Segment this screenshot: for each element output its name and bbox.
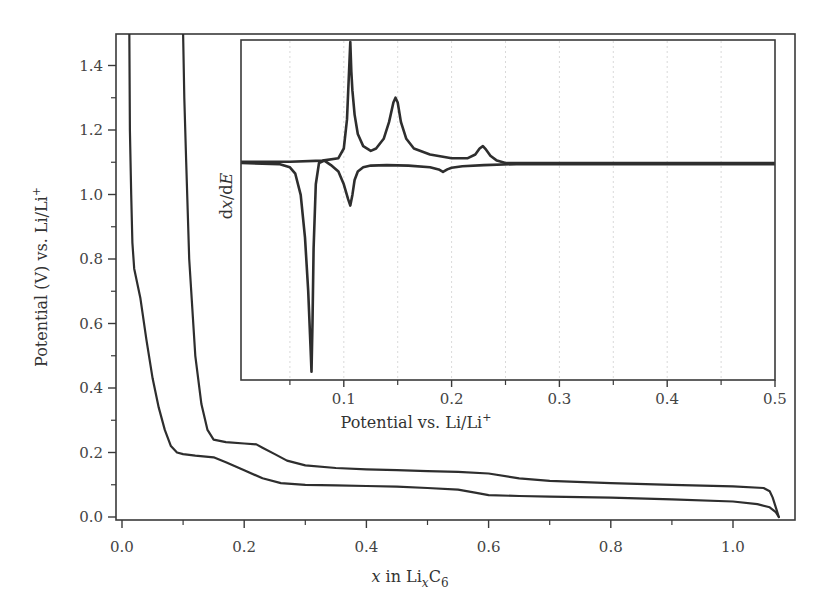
- chart-canvas: 0.00.20.40.60.81.01.21.4 0.00.20.40.60.8…: [0, 0, 823, 615]
- inset-x-tick-label: 0.4: [655, 390, 679, 408]
- y-tick-label: 0.2: [79, 444, 103, 462]
- inset-x-tick-label: 0.3: [547, 390, 571, 408]
- inset-x-tick-label: 0.5: [763, 390, 787, 408]
- x-tick-label: 0.0: [110, 538, 134, 556]
- y-tick-label: 1.2: [79, 121, 103, 139]
- inset-x-axis-ticks: 0.10.20.30.40.5: [290, 380, 787, 408]
- x-tick-label: 0.8: [599, 538, 623, 556]
- y-tick-label: 1.0: [79, 186, 103, 204]
- inset-x-tick-label: 0.2: [440, 390, 464, 408]
- y-tick-label: 0.6: [79, 315, 103, 333]
- inset-y-axis-label: dx/dE: [217, 172, 236, 219]
- x-tick-label: 0.4: [354, 538, 378, 556]
- x-tick-label: 0.2: [232, 538, 256, 556]
- x-tick-label: 0.6: [477, 538, 501, 556]
- main-x-axis-ticks: 0.00.20.40.60.81.0: [110, 520, 745, 556]
- y-tick-label: 0.4: [79, 379, 103, 397]
- y-tick-label: 0.8: [79, 250, 103, 268]
- y-tick-label: 1.4: [79, 57, 103, 75]
- inset-background: [241, 40, 775, 380]
- y-tick-label: 0.0: [79, 508, 103, 526]
- x-tick-label: 1.0: [721, 538, 745, 556]
- main-x-axis-label: x in LixC6: [371, 567, 448, 590]
- main-y-axis-label: Potential (V) vs. Li/Li+: [30, 187, 51, 367]
- main-y-axis-ticks: 0.00.20.40.60.81.01.21.4: [79, 57, 116, 527]
- inset-x-tick-label: 0.1: [332, 390, 356, 408]
- inset-x-axis-label: Potential vs. Li/Li+: [341, 411, 492, 432]
- inset-plot: 0.10.20.30.40.5 dx/dE Potential vs. Li/L…: [217, 40, 787, 432]
